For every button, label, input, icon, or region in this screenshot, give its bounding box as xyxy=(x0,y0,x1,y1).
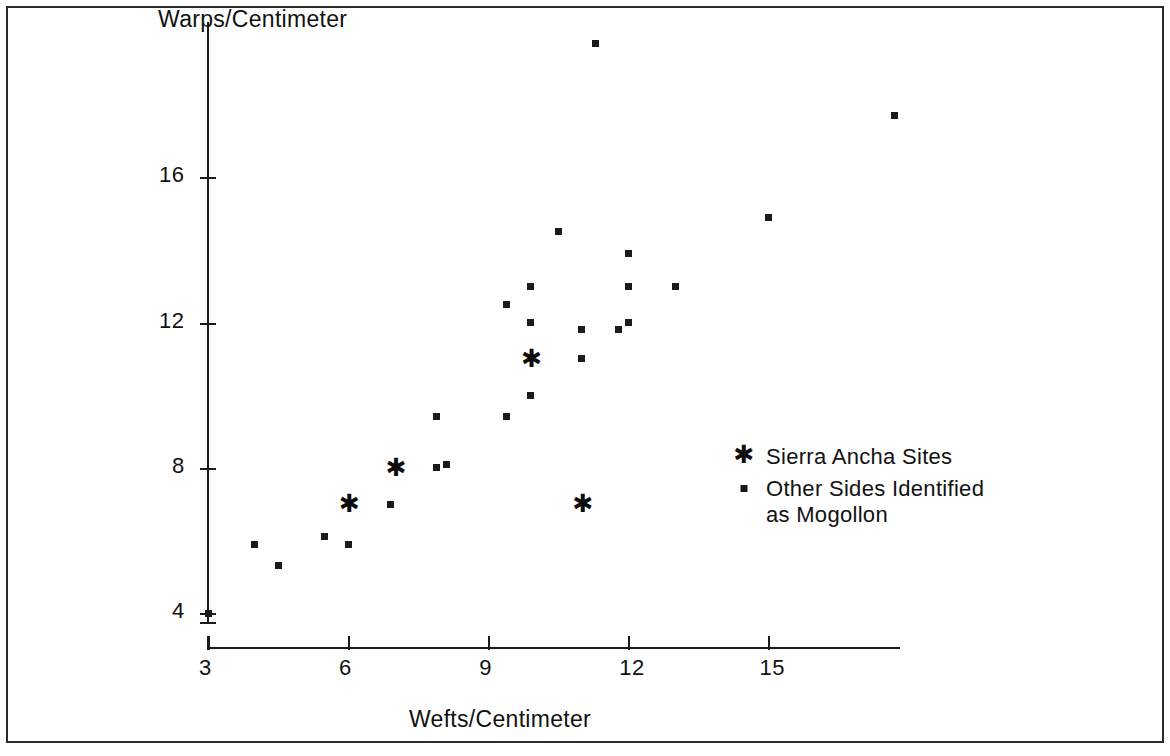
data-point-other-sides xyxy=(625,250,632,257)
y-tick xyxy=(200,177,216,179)
data-point-other-sides xyxy=(578,326,585,333)
data-point-other-sides xyxy=(433,464,440,471)
data-point-other-sides xyxy=(592,40,599,47)
data-point-other-sides xyxy=(321,533,328,540)
x-axis-line xyxy=(208,647,900,649)
data-point-other-sides xyxy=(625,283,632,290)
x-tick xyxy=(768,636,770,650)
data-point-other-sides xyxy=(555,228,562,235)
x-tick xyxy=(628,636,630,650)
legend-item-other-sides: Other Sides Identified as Mogollon xyxy=(722,476,1022,528)
data-point-other-sides xyxy=(387,501,394,508)
data-point-other-sides xyxy=(251,541,258,548)
data-point-other-sides xyxy=(503,301,510,308)
data-point-other-sides xyxy=(345,541,352,548)
data-point-sierra-ancha: ✱ xyxy=(521,350,539,368)
y-tick-label: 4 xyxy=(172,598,185,624)
y-axis-end-cap xyxy=(200,622,216,624)
data-point-other-sides xyxy=(765,214,772,221)
data-point-other-sides xyxy=(205,610,212,617)
data-point-other-sides xyxy=(527,319,534,326)
y-axis-title: Warps/Centimeter xyxy=(158,6,347,33)
data-point-other-sides xyxy=(275,562,282,569)
x-tick xyxy=(348,636,350,650)
x-tick-label: 6 xyxy=(339,655,352,681)
y-tick-label: 16 xyxy=(159,162,184,188)
data-point-sierra-ancha: ✱ xyxy=(339,495,357,513)
data-point-other-sides xyxy=(443,461,450,468)
legend-label-other-sides: Other Sides Identified as Mogollon xyxy=(766,476,984,528)
x-tick-label: 3 xyxy=(199,655,212,681)
x-tick xyxy=(208,636,210,650)
data-point-other-sides xyxy=(527,392,534,399)
y-tick xyxy=(200,323,216,325)
data-point-sierra-ancha: ✱ xyxy=(573,495,591,513)
data-point-other-sides xyxy=(625,319,632,326)
x-tick xyxy=(488,636,490,650)
x-tick-label: 15 xyxy=(759,655,784,681)
x-tick-label: 12 xyxy=(619,655,644,681)
data-point-other-sides xyxy=(433,413,440,420)
y-tick-label: 8 xyxy=(172,453,185,479)
data-point-sierra-ancha: ✱ xyxy=(386,459,404,477)
legend: ✱ Sierra Ancha Sites Other Sides Identif… xyxy=(722,444,1022,528)
dot-marker-icon xyxy=(722,476,766,502)
data-point-other-sides xyxy=(503,413,510,420)
legend-label-sierra-ancha: Sierra Ancha Sites xyxy=(766,444,952,470)
scatter-plot: Warps/Centimeter Wefts/Centimeter 369121… xyxy=(0,0,1170,756)
data-point-other-sides xyxy=(527,283,534,290)
x-tick-label: 9 xyxy=(479,655,492,681)
figure-page: Warps/Centimeter Wefts/Centimeter 369121… xyxy=(0,0,1170,756)
data-point-other-sides xyxy=(578,355,585,362)
x-axis-title: Wefts/Centimeter xyxy=(409,706,591,733)
data-point-other-sides xyxy=(672,283,679,290)
y-tick xyxy=(200,468,216,470)
data-point-other-sides xyxy=(891,112,898,119)
legend-item-sierra-ancha: ✱ Sierra Ancha Sites xyxy=(722,444,1022,470)
data-point-other-sides xyxy=(615,326,622,333)
asterisk-marker-icon: ✱ xyxy=(722,444,766,470)
y-tick-label: 12 xyxy=(159,308,184,334)
